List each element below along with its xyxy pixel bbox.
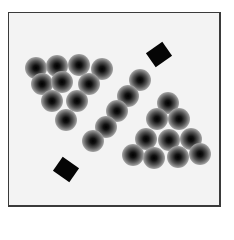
right-triangle-cluster-dot <box>168 108 190 130</box>
right-triangle-cluster-dot <box>146 108 168 130</box>
left-triangle-cluster-dot <box>55 109 77 131</box>
right-triangle-cluster-dot <box>189 143 211 165</box>
left-triangle-cluster-dot <box>41 90 63 112</box>
right-triangle-cluster-dot <box>167 146 189 168</box>
diagonal-line-dot <box>82 130 104 152</box>
right-triangle-cluster-dot <box>143 147 165 169</box>
right-triangle-cluster-dot <box>122 144 144 166</box>
